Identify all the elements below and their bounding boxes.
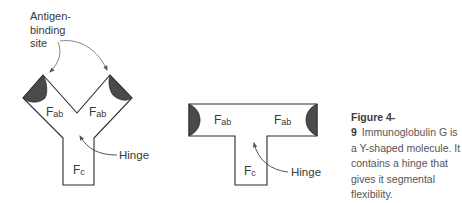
y-shaped-molecule: Antigen- binding site Fab Fab Fc Hinge xyxy=(23,10,149,185)
antigen-binding-site-label: Antigen- binding site xyxy=(30,10,74,49)
callout-line-1: Antigen- xyxy=(30,10,71,22)
callout-arrow-right xyxy=(60,41,107,70)
callout-line-2: binding xyxy=(30,24,65,36)
hinge-label: Hinge xyxy=(119,149,149,161)
callout-line-3: site xyxy=(30,37,47,49)
caption-text: Immunoglobulin G is a Y-shaped molecule.… xyxy=(351,126,460,200)
hinge-label: Hinge xyxy=(291,166,321,178)
binding-site-left xyxy=(23,75,47,102)
callout-arrow-left xyxy=(50,42,60,72)
figure-caption: Figure 4-9Immunoglobulin G is a Y-shaped… xyxy=(351,110,462,202)
t-shaped-molecule: Fab Fab Fc Hinge xyxy=(189,104,321,185)
